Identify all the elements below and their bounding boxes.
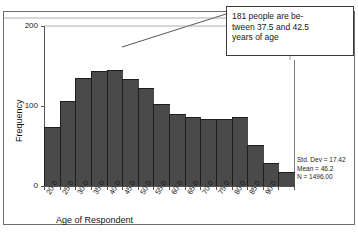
x-axis-tick-labels: 20.025.030.035.040.045.050.055.060.065.0… <box>44 190 304 216</box>
stat-mean: Mean = 46.2 <box>297 165 346 174</box>
histogram-bar <box>216 119 233 186</box>
y-axis-tick-label: 0 <box>12 182 38 190</box>
callout-line-3: years of age <box>232 32 348 43</box>
histogram-bar <box>91 71 108 186</box>
y-axis-title: Frequency <box>14 99 24 142</box>
callout-box: 181 people are be- tween 37.5 and 42.5 y… <box>226 6 354 56</box>
stat-n: N = 1496.00 <box>297 173 346 182</box>
histogram-bar <box>278 172 295 186</box>
histogram-bar <box>60 101 77 186</box>
histogram-bar <box>44 127 61 186</box>
histogram-bar <box>122 79 139 186</box>
histogram-bar <box>232 117 249 186</box>
y-axis-tick-label: 200 <box>12 22 38 30</box>
stat-std-dev: Std. Dev = 17.42 <box>297 156 346 165</box>
x-axis-title: Age of Respondent <box>56 215 133 225</box>
histogram-bar <box>153 104 170 186</box>
plot-right-boundary <box>294 60 295 187</box>
callout-line-2: tween 37.5 and 42.5 <box>232 22 348 33</box>
histogram-bar <box>107 70 124 186</box>
histogram-bar <box>75 78 92 186</box>
statistics-block: Std. Dev = 17.42 Mean = 46.2 N = 1496.00 <box>297 156 346 182</box>
histogram-bar <box>138 88 155 186</box>
histogram-bar <box>185 117 202 186</box>
histogram-bar <box>200 119 217 186</box>
histogram-bar <box>169 114 186 186</box>
histogram-screenshot: 0100200 Frequency 20.025.030.035.040.045… <box>0 0 358 238</box>
callout-line-1: 181 people are be- <box>232 11 348 22</box>
